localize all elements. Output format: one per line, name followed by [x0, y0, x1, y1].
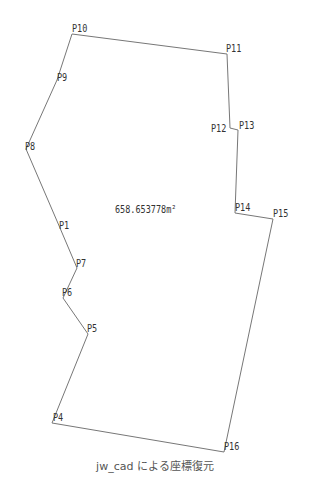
area-label: 658.653778m² — [115, 205, 176, 215]
point-label-p12: P12 — [211, 124, 226, 134]
survey-plot-canvas — [0, 0, 310, 482]
point-label-p7: P7 — [76, 259, 86, 269]
point-label-p1: P1 — [59, 221, 69, 231]
point-label-p4: P4 — [53, 413, 63, 423]
point-label-p9: P9 — [57, 73, 67, 83]
land-boundary-polygon — [26, 34, 273, 452]
figure-caption: jw_cad による座標復元 — [0, 457, 310, 473]
point-label-p8: P8 — [25, 142, 35, 152]
point-label-p14: P14 — [235, 203, 250, 213]
point-label-p6: P6 — [62, 288, 72, 298]
point-label-p10: P10 — [72, 24, 87, 34]
point-label-p13: P13 — [239, 121, 254, 131]
point-label-p16: P16 — [224, 442, 239, 452]
point-label-p5: P5 — [87, 324, 97, 334]
point-label-p15: P15 — [273, 209, 288, 219]
point-label-p11: P11 — [226, 44, 241, 54]
